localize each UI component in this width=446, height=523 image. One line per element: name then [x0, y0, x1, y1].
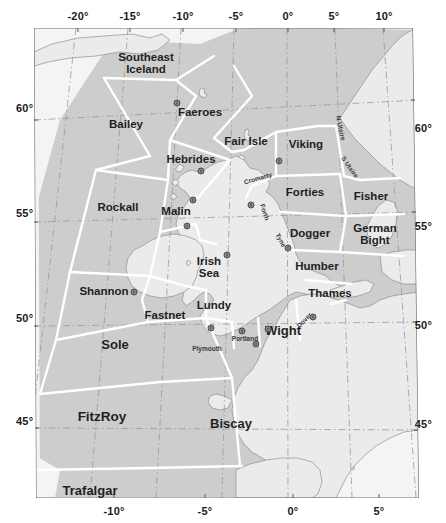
area-label-faeroes[interactable]: Faeroes [178, 106, 222, 118]
station-marker[interactable] [198, 168, 205, 175]
shipping-forecast-map: -20° -15° -10° -5° 0° 5° 10° -10° -5° 0°… [0, 0, 446, 523]
station-marker[interactable] [190, 197, 197, 204]
axis-tick-right-2: 50° [415, 319, 432, 331]
map-canvas [0, 0, 446, 523]
station-marker[interactable] [131, 289, 138, 296]
area-label-fastnet[interactable]: Fastnet [145, 309, 186, 321]
area-label-rockall[interactable]: Rockall [98, 201, 139, 213]
area-label-fitzroy[interactable]: FitzRoy [78, 410, 127, 425]
axis-tick-top-5: 5° [329, 10, 340, 22]
station-marker[interactable] [265, 326, 272, 333]
axis-tick-top-2: -10° [172, 10, 193, 22]
axis-tick-top-3: -5° [229, 10, 244, 22]
station-marker[interactable] [253, 341, 260, 348]
area-label-irish-sea[interactable]: Irish Sea [197, 255, 221, 280]
axis-tick-left-2: 50° [16, 312, 33, 324]
axis-tick-left-0: 60° [16, 102, 33, 114]
axis-tick-bottom-1: -5° [198, 505, 213, 517]
axis-tick-top-0: -20° [67, 10, 88, 22]
station-marker[interactable] [239, 328, 246, 335]
station-marker[interactable] [174, 100, 181, 107]
station-marker[interactable] [208, 325, 215, 332]
axis-tick-bottom-0: -10° [103, 505, 124, 517]
area-label-lundy[interactable]: Lundy [197, 299, 232, 311]
area-label-thames[interactable]: Thames [308, 287, 351, 299]
axis-tick-bottom-2: 0° [288, 505, 299, 517]
area-label-sole[interactable]: Sole [101, 338, 128, 352]
area-label-shannon[interactable]: Shannon [79, 285, 128, 297]
area-label-fair-isle[interactable]: Fair Isle [224, 135, 267, 147]
area-label-bailey[interactable]: Bailey [109, 118, 143, 130]
axis-tick-right-3: 45° [415, 418, 432, 430]
area-label-malin[interactable]: Malin [161, 205, 190, 217]
axis-tick-top-4: 0° [283, 10, 294, 22]
area-label-dogger[interactable]: Dogger [290, 227, 330, 239]
area-label-biscay[interactable]: Biscay [210, 417, 252, 431]
axis-tick-right-0: 60° [415, 122, 432, 134]
area-label-southeast-iceland[interactable]: Southeast Iceland [118, 51, 174, 76]
area-label-german-bight[interactable]: German Bight [353, 222, 396, 247]
station-marker[interactable] [310, 314, 317, 321]
area-label-fisher[interactable]: Fisher [354, 190, 389, 202]
coastal-label-plymouth[interactable]: Plymouth [192, 345, 222, 352]
axis-tick-left-3: 45° [16, 415, 33, 427]
station-marker[interactable] [276, 158, 283, 165]
area-label-hebrides[interactable]: Hebrides [166, 153, 215, 165]
axis-tick-top-6: 10° [375, 10, 392, 22]
station-marker[interactable] [184, 223, 191, 230]
station-marker[interactable] [224, 252, 231, 259]
area-label-viking[interactable]: Viking [289, 138, 323, 150]
area-label-humber[interactable]: Humber [295, 260, 338, 272]
axis-tick-bottom-3: 5° [374, 505, 385, 517]
axis-tick-left-1: 55° [16, 207, 33, 219]
station-marker[interactable] [285, 245, 292, 252]
station-marker[interactable] [248, 202, 255, 209]
area-label-trafalgar[interactable]: Trafalgar [63, 484, 118, 498]
area-label-forties[interactable]: Forties [286, 186, 324, 198]
axis-tick-right-1: 55° [415, 220, 432, 232]
axis-tick-top-1: -15° [119, 10, 140, 22]
